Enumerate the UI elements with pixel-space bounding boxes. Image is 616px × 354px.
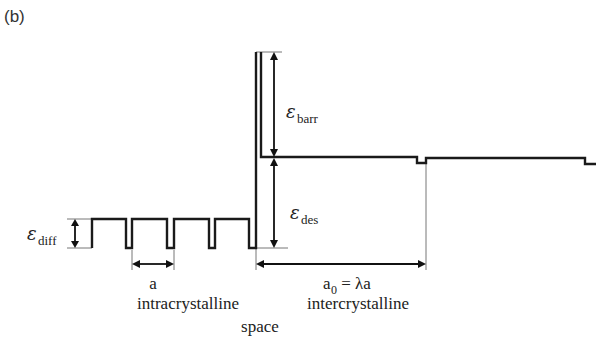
intracrystalline-label: intracrystalline — [137, 294, 239, 313]
a0-arrowhead-right — [418, 260, 426, 268]
svg-text:ε: ε — [27, 223, 37, 244]
a-label: a — [149, 274, 157, 293]
panel-label: (b) — [4, 7, 25, 26]
e-des-arrowhead-down — [270, 240, 278, 248]
svg-text:a: a — [323, 274, 331, 293]
svg-text:barr: barr — [297, 111, 319, 126]
svg-text:ε: ε — [286, 101, 296, 122]
intercrystalline-label: intercrystalline — [307, 294, 409, 313]
a-arrowhead-right — [166, 260, 174, 268]
a0-arrowhead-left — [256, 260, 264, 268]
e-diff-arrowhead-up — [71, 219, 79, 226]
e-diff-arrowhead-down — [71, 241, 79, 248]
energy-profile-diagram: (b) ε diff ε barr ε des a intracrystalli… — [0, 0, 616, 354]
intracrystalline-potential-curve — [92, 52, 256, 248]
e-barr-label: ε barr — [286, 101, 319, 126]
e-barr-arrowhead-up — [270, 52, 278, 60]
space-label: space — [241, 317, 279, 336]
e-des-arrowhead-up — [270, 158, 278, 166]
svg-text:diff: diff — [38, 233, 57, 248]
svg-text:= λa: = λa — [337, 274, 371, 293]
e-des-label: ε des — [290, 202, 318, 227]
intercrystalline-potential-curve — [261, 52, 596, 164]
a-arrowhead-left — [132, 260, 140, 268]
svg-text:ε: ε — [290, 202, 300, 223]
e-diff-label: ε diff — [27, 223, 57, 248]
svg-text:des: des — [301, 212, 318, 227]
